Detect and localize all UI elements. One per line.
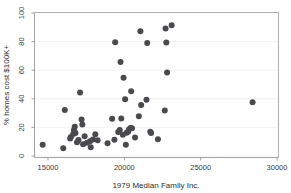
x-axis-title: 1979 Median Family Inc. (112, 181, 199, 190)
y-tick-label-0: 0 (17, 154, 26, 158)
data-point (118, 116, 124, 122)
x-tick-group: 15000200002500030000 (38, 158, 288, 172)
data-point (163, 25, 169, 31)
data-point (109, 116, 115, 122)
data-point (250, 99, 256, 105)
y-tick-label-40: 40 (17, 95, 26, 103)
data-point (79, 122, 85, 128)
data-point (144, 40, 150, 46)
plot-canvas: 020406080100 15000200002500030000 1979 M… (0, 0, 291, 193)
data-point (60, 145, 66, 151)
data-point (88, 144, 94, 150)
data-point (79, 116, 85, 122)
data-point (162, 108, 168, 114)
data-point (92, 131, 98, 137)
data-point (77, 90, 83, 96)
data-point (122, 96, 128, 102)
y-axis-title: % homes cost $100K+ (2, 45, 11, 126)
data-point (136, 113, 142, 119)
data-point (111, 137, 117, 143)
y-tick-label-100: 100 (17, 7, 26, 20)
y-tick-label-80: 80 (17, 37, 26, 45)
y-tick-label-60: 60 (17, 66, 26, 74)
data-point (95, 137, 101, 143)
data-point (76, 137, 82, 143)
data-point (137, 28, 143, 34)
data-point (164, 69, 170, 75)
data-point (132, 134, 138, 140)
data-point (72, 130, 78, 136)
data-point (155, 136, 161, 142)
scatter-plot-figure: 020406080100 15000200002500030000 1979 M… (0, 0, 291, 193)
x-tick-label-15000: 15000 (38, 163, 59, 172)
data-point (118, 59, 124, 65)
data-point (72, 124, 78, 130)
x-tick-label-20000: 20000 (114, 163, 135, 172)
data-point (163, 39, 169, 45)
y-tick-label-20: 20 (17, 123, 26, 131)
y-tick-group: 020406080100 (17, 7, 35, 158)
data-point (82, 133, 88, 139)
data-point (40, 142, 46, 148)
data-point (138, 102, 144, 108)
data-point (129, 125, 135, 131)
data-point (105, 140, 111, 146)
data-point (121, 75, 127, 81)
data-point (112, 39, 118, 45)
data-point (148, 130, 154, 136)
data-point (143, 97, 149, 103)
data-point (169, 22, 175, 28)
x-tick-label-30000: 30000 (267, 163, 288, 172)
data-point (123, 142, 129, 148)
x-tick-label-25000: 25000 (190, 163, 211, 172)
data-point (128, 88, 134, 94)
data-point (62, 107, 68, 113)
